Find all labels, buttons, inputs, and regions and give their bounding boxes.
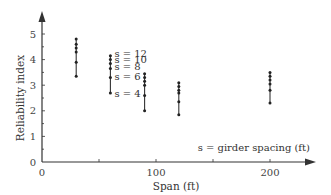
data-point [75,43,78,46]
data-point [75,75,78,78]
y-tick-label: 3 [30,80,36,91]
data-point [177,85,180,88]
data-point [269,71,272,74]
y-tick-label: 4 [30,54,36,65]
data-point [269,79,272,82]
data-point [269,75,272,78]
data-point [143,80,146,83]
y-axis-arrow-icon [39,11,46,22]
data-point [177,113,180,116]
y-tick-label: 2 [30,105,36,116]
data-point [269,102,272,105]
y-tick-label: 1 [30,131,36,142]
spacing-label: s = 6 [114,71,140,82]
x-tick-label: 0 [39,167,45,178]
data-point [143,76,146,79]
data-point [109,58,112,61]
data-point [75,47,78,50]
data-point [109,62,112,65]
reliability-chart: 0123450100200 Span (ft)Reliability index… [0,0,331,195]
data-point [143,109,146,112]
data-point [109,67,112,70]
data-point [177,81,180,84]
data-point [177,91,180,94]
data-point [109,91,112,94]
y-tick-label: 0 [30,157,36,168]
spacing-label: s = 4 [114,88,140,99]
x-axis-arrow-icon [305,159,316,166]
y-tick-label: 5 [30,29,36,40]
x-tick-label: 200 [260,167,279,178]
data-point [143,72,146,75]
girder-spacing-note: s = girder spacing (ft) [198,142,310,153]
data-point [75,38,78,41]
data-point [177,89,180,92]
x-tick-label: 100 [146,167,165,178]
data-point [75,50,78,53]
data-point [143,84,146,87]
data-point [109,54,112,57]
data-point [269,89,272,92]
data-point [269,82,272,85]
data-point [75,61,78,64]
data-point [109,76,112,79]
y-axis-title: Reliability index [14,55,26,141]
x-axis-title: Span (ft) [153,180,200,192]
data-point [177,100,180,103]
data-point [143,94,146,97]
data-points [75,38,272,117]
